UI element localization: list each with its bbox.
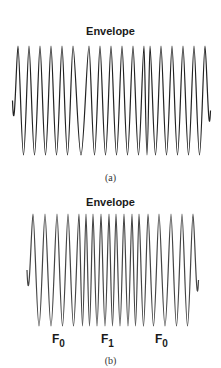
panel-b-waveform xyxy=(0,0,221,340)
freq-label-f1: F1 xyxy=(101,332,114,349)
panel-b-caption: (b) xyxy=(0,355,221,366)
freq-label-f0-right: F0 xyxy=(155,332,168,349)
freq-label-f0-left: F0 xyxy=(52,332,65,349)
